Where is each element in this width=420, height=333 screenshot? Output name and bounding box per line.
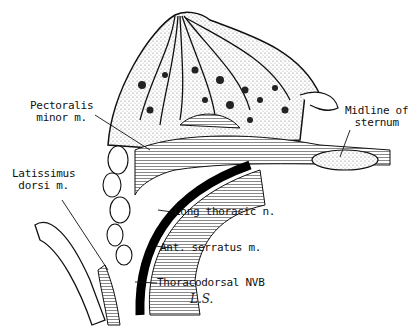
label-latissimus-dorsi: Latissimus dorsi m. — [12, 168, 75, 192]
label-thoracodorsal-nvb: Thoracodorsal NVB — [157, 277, 264, 289]
label-line-2: dorsi m. — [12, 180, 75, 192]
label-midline-sternum: Midline of sternum — [345, 105, 408, 129]
label-long-thoracic-nerve: Long thoracic n. — [174, 206, 275, 218]
artist-signature: L.S. — [190, 292, 213, 306]
label-anterior-serratus: Ant. serratus m. — [160, 242, 261, 254]
axillary-fat — [103, 146, 132, 265]
label-pectoralis-minor: Pectoralis minor m. — [30, 100, 93, 124]
label-line-2: minor m. — [30, 112, 93, 124]
sternum — [312, 150, 378, 170]
label-line-2: sternum — [345, 117, 408, 129]
